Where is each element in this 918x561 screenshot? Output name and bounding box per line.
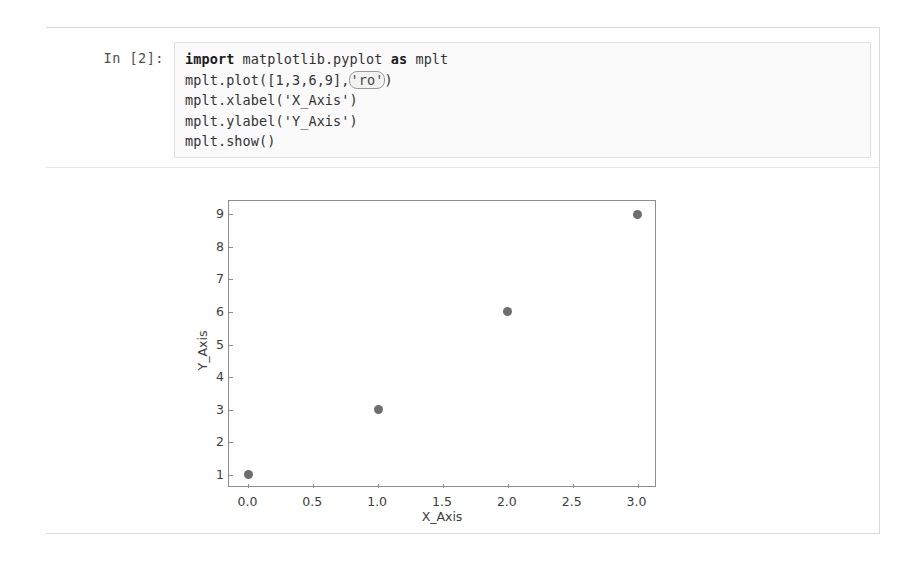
code-line: mplt.ylabel('Y_Axis')	[185, 111, 862, 132]
data-point	[244, 470, 253, 479]
code-line: mplt.plot([1,3,6,9],'ro')	[185, 70, 862, 91]
code-line: mplt.xlabel('X_Axis')	[185, 90, 862, 111]
code-token: mplt.show()	[185, 133, 276, 149]
notebook-frame: In [2]: import matplotlib.pyplot as mplt…	[46, 27, 880, 534]
x-tick-label: 2.0	[490, 494, 524, 509]
code-token: matplotlib.pyplot	[234, 51, 390, 67]
y-tick-label: 8	[202, 238, 224, 253]
y-tick-label: 7	[202, 271, 224, 286]
x-tick-label: 1.0	[360, 494, 394, 509]
data-point	[633, 210, 642, 219]
y-tick-label: 1	[202, 466, 224, 481]
y-tick-mark	[229, 345, 233, 346]
y-tick-mark	[229, 442, 233, 443]
y-tick-label: 2	[202, 434, 224, 449]
x-tick-label: 2.5	[555, 494, 589, 509]
x-tick-label: 1.5	[425, 494, 459, 509]
code-token: mplt	[407, 51, 448, 67]
code-token: mplt.ylabel('Y_Axis')	[185, 113, 358, 129]
y-tick-label: 3	[202, 401, 224, 416]
notebook-code-cell[interactable]: In [2]: import matplotlib.pyplot as mplt…	[46, 28, 879, 168]
code-token: import	[185, 51, 234, 67]
y-tick-mark	[229, 475, 233, 476]
code-token: as	[391, 51, 407, 67]
x-axis-tick-labels: 0.00.51.01.52.02.53.0	[228, 487, 656, 507]
data-point	[374, 405, 383, 414]
code-token-highlighted: 'ro'	[350, 72, 385, 88]
y-tick-mark	[229, 377, 233, 378]
code-input-editor[interactable]: import matplotlib.pyplot as mplt mplt.pl…	[174, 42, 871, 158]
plot-axes-frame	[228, 200, 656, 487]
code-token: mplt.xlabel('X_Axis')	[185, 92, 358, 108]
data-point	[503, 307, 512, 316]
x-tick-label: 3.0	[620, 494, 654, 509]
x-axis-title: X_Axis	[228, 509, 656, 524]
code-token: mplt.plot([1,3,6,9],	[185, 72, 350, 88]
y-tick-mark	[229, 247, 233, 248]
x-tick-label: 0.0	[230, 494, 264, 509]
x-tick-label: 0.5	[295, 494, 329, 509]
code-line: mplt.show()	[185, 131, 862, 152]
y-axis-title: Y_Axis	[195, 311, 210, 391]
y-tick-mark	[229, 410, 233, 411]
code-line: import matplotlib.pyplot as mplt	[185, 49, 862, 70]
cell-prompt-label: In [2]:	[96, 50, 164, 66]
cell-output-area: 123456789 0.00.51.01.52.02.53.0 X_Axis Y…	[46, 169, 879, 534]
y-tick-mark	[229, 214, 233, 215]
y-tick-mark	[229, 312, 233, 313]
y-tick-label: 9	[202, 206, 224, 221]
code-token: )	[384, 72, 392, 88]
matplotlib-figure: 123456789 0.00.51.01.52.02.53.0 X_Axis Y…	[181, 183, 671, 523]
y-tick-mark	[229, 279, 233, 280]
